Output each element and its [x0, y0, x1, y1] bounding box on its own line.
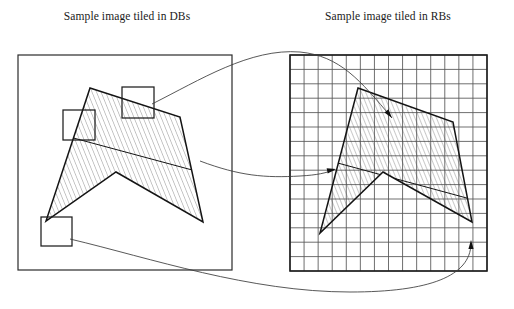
connector-middle-tile-arrowhead [327, 168, 336, 173]
connector-bottom-tile [70, 239, 471, 292]
left-panel-caption: Sample image tiled in DBs [64, 10, 191, 23]
left-shape-group [46, 88, 207, 222]
right-shape-group [320, 88, 474, 233]
connector-middle-tile [200, 161, 334, 177]
figure-root: Sample image tiled in DBs Sample image t… [0, 0, 514, 309]
right-panel-caption: Sample image tiled in RBs [325, 10, 451, 23]
right-panel: Sample image tiled in RBs [290, 10, 487, 271]
left-shape-hatch-fill [46, 88, 203, 222]
left-panel: Sample image tiled in DBs [18, 10, 232, 270]
